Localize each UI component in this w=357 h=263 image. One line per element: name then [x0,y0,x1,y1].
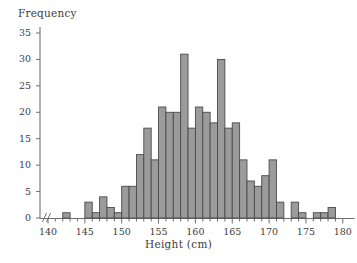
y-tick-label: 10 [9,159,31,170]
histogram-bar [100,197,107,218]
histogram-bars [63,54,336,218]
histogram-bar [122,186,129,218]
histogram-chart: Frequency 05101520253035 140145150155160… [0,0,357,263]
histogram-bar [63,213,70,218]
x-tick-label: 140 [33,226,63,237]
histogram-bar [129,186,136,218]
histogram-bar [181,54,188,218]
y-tick-label: 15 [9,133,31,144]
histogram-bar [240,160,247,218]
histogram-bar [247,181,254,218]
histogram-bar [321,213,328,218]
x-tick-label: 145 [70,226,100,237]
histogram-bar [92,213,99,218]
histogram-bar [144,128,151,218]
histogram-bar [203,112,210,218]
histogram-bar [291,202,298,218]
histogram-bar [173,112,180,218]
x-tick-label: 155 [144,226,174,237]
histogram-bar [114,213,121,218]
x-tick-label: 180 [328,226,357,237]
histogram-bar [136,155,143,218]
histogram-bar [151,160,158,218]
histogram-bar [262,176,269,218]
histogram-bar [313,213,320,218]
y-tick-label: 0 [9,212,31,223]
y-tick-label: 5 [9,186,31,197]
histogram-bar [188,128,195,218]
histogram-bar [218,59,225,218]
histogram-bar [269,160,276,218]
x-tick-label: 150 [107,226,137,237]
histogram-bar [195,107,202,218]
histogram-bar [85,202,92,218]
plot-area [0,0,357,263]
x-axis-title: Height (cm) [0,238,357,250]
x-tick-label: 175 [291,226,321,237]
histogram-bar [225,128,232,218]
y-tick-label: 20 [9,106,31,117]
x-tick-label: 170 [254,226,284,237]
histogram-bar [107,207,114,218]
y-tick-label: 25 [9,80,31,91]
histogram-bar [166,112,173,218]
x-tick-label: 160 [180,226,210,237]
histogram-bar [254,186,261,218]
y-tick-label: 30 [9,53,31,64]
y-tick-label: 35 [9,27,31,38]
histogram-bar [210,123,217,218]
histogram-bar [232,123,239,218]
histogram-bar [328,207,335,218]
histogram-bar [276,202,283,218]
histogram-bar [299,213,306,218]
histogram-bar [159,107,166,218]
x-tick-label: 165 [217,226,247,237]
